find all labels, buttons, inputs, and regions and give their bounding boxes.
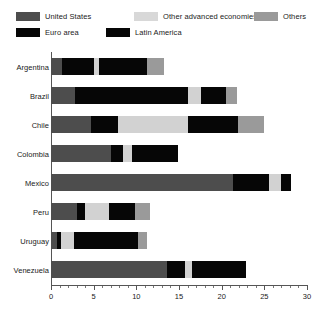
category-label-brazil: Brazil	[2, 91, 49, 100]
x-axis-minor-tick	[205, 286, 206, 288]
bar-segment-others[interactable]	[135, 203, 150, 220]
x-axis-minor-tick	[68, 286, 69, 288]
bar-segment-latin-america[interactable]	[109, 203, 135, 220]
x-axis-minor-tick	[162, 286, 163, 288]
x-axis-tick-label: 0	[49, 292, 53, 301]
bar-segment-united-states[interactable]	[51, 116, 91, 133]
x-axis-major-tick	[222, 286, 223, 290]
plot-area	[51, 52, 307, 284]
x-axis-minor-tick	[298, 286, 299, 288]
category-label-venezuela: Venezuela	[2, 265, 49, 274]
bar-segment-latin-america[interactable]	[188, 116, 238, 133]
bar-segment-euro-area[interactable]	[91, 116, 117, 133]
bar-segment-latin-america[interactable]	[281, 174, 290, 191]
bar-segment-other-advanced-economies[interactable]	[269, 174, 281, 191]
bar-segment-united-states[interactable]	[51, 261, 167, 278]
bar-segment-latin-america[interactable]	[99, 58, 148, 75]
legend-item-united-states[interactable]: United States	[16, 8, 91, 24]
bar-segment-euro-area[interactable]	[111, 145, 123, 162]
x-axis-major-tick	[264, 286, 265, 290]
bar-row-brazil[interactable]	[51, 87, 307, 104]
x-axis-minor-tick	[128, 286, 129, 288]
x-axis-minor-tick	[188, 286, 189, 288]
legend-item-others[interactable]: Others	[254, 8, 306, 24]
bar-segment-latin-america[interactable]	[201, 87, 226, 104]
bar-segment-other-advanced-economies[interactable]	[85, 203, 109, 220]
legend-item-latin-america[interactable]: Latin America	[106, 24, 182, 40]
bar-row-mexico[interactable]	[51, 174, 307, 191]
bar-segment-united-states[interactable]	[51, 174, 233, 191]
x-axis-minor-tick	[111, 286, 112, 288]
x-axis-minor-tick	[213, 286, 214, 288]
x-axis-minor-tick	[153, 286, 154, 288]
legend-swatch-icon	[16, 12, 40, 21]
legend-item-label: Latin America	[135, 28, 182, 37]
category-label-uruguay: Uruguay	[2, 236, 49, 245]
bar-segment-other-advanced-economies[interactable]	[188, 87, 201, 104]
category-label-chile: Chile	[2, 120, 49, 129]
bar-segment-other-advanced-economies[interactable]	[61, 232, 74, 249]
x-axis-tick-label: 5	[92, 292, 96, 301]
bar-segment-united-states[interactable]	[51, 58, 62, 75]
bar-segment-united-states[interactable]	[51, 203, 77, 220]
bar-segment-united-states[interactable]	[51, 145, 111, 162]
bar-segment-united-states[interactable]	[51, 87, 75, 104]
x-axis-minor-tick	[119, 286, 120, 288]
bar-segment-others[interactable]	[147, 58, 163, 75]
bar-segment-other-advanced-economies[interactable]	[123, 145, 132, 162]
x-axis-tick-label: 30	[303, 292, 311, 301]
bar-row-uruguay[interactable]	[51, 232, 307, 249]
bar-segment-latin-america[interactable]	[192, 261, 247, 278]
bar-row-peru[interactable]	[51, 203, 307, 220]
x-axis-tick-label: 25	[260, 292, 268, 301]
x-axis-major-tick	[179, 286, 180, 290]
legend-item-euro-area[interactable]: Euro area	[16, 24, 79, 40]
bar-segment-latin-america[interactable]	[132, 145, 178, 162]
x-axis-minor-tick	[290, 286, 291, 288]
bar-segment-euro-area[interactable]	[62, 58, 94, 75]
bar-segment-latin-america[interactable]	[233, 174, 270, 191]
bar-segment-euro-area[interactable]	[77, 203, 85, 220]
category-label-argentina: Argentina	[2, 62, 49, 71]
legend-item-other-advanced-economies[interactable]: Other advanced economies	[134, 8, 257, 24]
x-axis-tick-label: 15	[175, 292, 183, 301]
bar-segment-latin-america[interactable]	[74, 232, 138, 249]
x-axis-minor-tick	[170, 286, 171, 288]
category-label-mexico: Mexico	[2, 178, 49, 187]
x-axis-minor-tick	[102, 286, 103, 288]
x-axis-minor-tick	[230, 286, 231, 288]
x-axis-minor-tick	[256, 286, 257, 288]
x-axis-minor-tick	[273, 286, 274, 288]
bar-segment-others[interactable]	[138, 232, 147, 249]
x-axis-minor-tick	[85, 286, 86, 288]
x-axis-minor-tick	[77, 286, 78, 288]
bar-segment-others[interactable]	[238, 116, 264, 133]
bar-segment-other-advanced-economies[interactable]	[118, 116, 188, 133]
bar-segment-euro-area[interactable]	[167, 261, 185, 278]
bar-row-venezuela[interactable]	[51, 261, 307, 278]
x-axis-major-tick	[94, 286, 95, 290]
legend-item-label: Euro area	[45, 28, 79, 37]
legend-item-label: Others	[283, 12, 306, 21]
x-axis-major-tick	[307, 286, 308, 290]
x-axis-minor-tick	[281, 286, 282, 288]
legend-swatch-icon	[134, 12, 158, 21]
category-label-peru: Peru	[2, 207, 49, 216]
bar-segment-others[interactable]	[226, 87, 237, 104]
x-axis-minor-tick	[247, 286, 248, 288]
x-axis-minor-tick	[60, 286, 61, 288]
legend-swatch-icon	[254, 12, 278, 21]
x-axis-minor-tick	[145, 286, 146, 288]
legend-row-top: United StatesOther advanced economiesOth…	[0, 8, 321, 24]
bar-row-chile[interactable]	[51, 116, 307, 133]
x-axis-tick-label: 20	[217, 292, 225, 301]
category-label-colombia: Colombia	[2, 149, 49, 158]
bar-segment-other-advanced-economies[interactable]	[185, 261, 192, 278]
legend-swatch-icon	[106, 28, 130, 37]
legend-item-label: United States	[45, 12, 91, 21]
bar-segment-euro-area[interactable]	[75, 87, 188, 104]
x-axis-tick-label: 10	[132, 292, 140, 301]
bar-row-colombia[interactable]	[51, 145, 307, 162]
x-axis-major-tick	[51, 286, 52, 290]
bar-row-argentina[interactable]	[51, 58, 307, 75]
